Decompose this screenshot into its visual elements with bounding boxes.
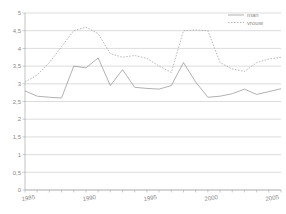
y-tick-label: 3,5: [13, 63, 22, 69]
legend-label-vrouw: vrouw: [247, 20, 264, 26]
x-tick-label: 2005: [265, 194, 280, 202]
x-tick-label: 1985: [21, 194, 36, 202]
chart-plot-area: 00,511,522,533,544,551985199019952000200…: [0, 0, 286, 214]
y-tick-label: 0: [18, 187, 22, 193]
y-tick-label: 1,5: [13, 134, 22, 140]
series-line-vrouw: [25, 27, 281, 82]
y-tick-label: 5: [18, 10, 22, 16]
x-tick-label: 2000: [204, 194, 219, 202]
y-tick-label: 3: [18, 81, 22, 87]
y-tick-label: 2,5: [13, 99, 22, 105]
series-line-man: [25, 58, 281, 98]
y-tick-label: 4,5: [13, 28, 22, 34]
y-tick-label: 0,5: [13, 170, 22, 176]
y-tick-label: 4: [18, 46, 22, 52]
y-tick-label: 1: [18, 152, 22, 158]
x-tick-label: 1990: [82, 194, 97, 202]
line-chart: 00,511,522,533,544,551985199019952000200…: [0, 0, 286, 214]
x-tick-label: 1995: [143, 194, 158, 202]
y-tick-label: 2: [18, 116, 22, 122]
legend-label-man: man: [247, 12, 259, 18]
